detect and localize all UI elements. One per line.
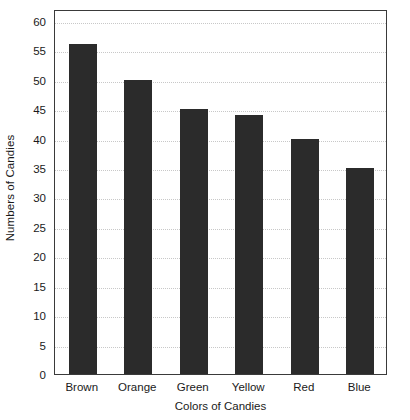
y-tick-label: 45: [2, 104, 46, 116]
gridline: [55, 288, 386, 289]
x-tick-label: Red: [293, 381, 314, 393]
x-tick-label: Orange: [118, 381, 156, 393]
bar: [69, 44, 97, 374]
plot-area: [54, 10, 387, 375]
gridline: [55, 23, 386, 24]
gridline: [55, 52, 386, 53]
gridline: [55, 258, 386, 259]
gridline: [55, 141, 386, 142]
y-tick-label: 15: [2, 281, 46, 293]
bar: [124, 80, 152, 374]
bar: [180, 109, 208, 374]
y-tick-label: 50: [2, 75, 46, 87]
bar: [235, 115, 263, 374]
y-tick-label: 40: [2, 134, 46, 146]
y-tick-label: 25: [2, 222, 46, 234]
bar: [346, 168, 374, 374]
x-tick-label: Brown: [65, 381, 98, 393]
x-axis-title: Colors of Candies: [54, 400, 387, 412]
y-tick-label: 55: [2, 45, 46, 57]
gridline: [55, 170, 386, 171]
y-tick-label: 30: [2, 192, 46, 204]
y-tick-label: 0: [2, 369, 46, 381]
y-tick-label: 5: [2, 340, 46, 352]
x-axis-title-label: Colors of Candies: [175, 400, 266, 412]
gridline: [55, 317, 386, 318]
bar: [291, 139, 319, 374]
gridline: [55, 347, 386, 348]
y-tick-label: 35: [2, 163, 46, 175]
bar-chart-figure: Numbers of Candies 051015202530354045505…: [0, 0, 410, 420]
gridline: [55, 111, 386, 112]
x-tick-label: Green: [177, 381, 209, 393]
x-tick-label: Yellow: [232, 381, 265, 393]
y-tick-label: 10: [2, 310, 46, 322]
x-tick-label: Blue: [348, 381, 371, 393]
y-tick-label: 60: [2, 16, 46, 28]
y-tick-label: 20: [2, 251, 46, 263]
gridline: [55, 199, 386, 200]
gridline: [55, 229, 386, 230]
gridline: [55, 82, 386, 83]
